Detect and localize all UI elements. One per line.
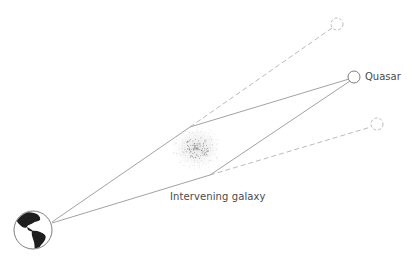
- sightline-lower-image: [210, 127, 371, 175]
- lensing-diagram: Quasar Intervening galaxy: [0, 0, 413, 264]
- galaxy-label: Intervening galaxy: [170, 192, 266, 202]
- path-quasar-to-lower: [210, 81, 350, 175]
- sightline-upper-image: [190, 28, 332, 127]
- earth-icon: [14, 211, 52, 253]
- quasar-icon: [348, 71, 360, 83]
- apparent-image-lower-icon: [371, 118, 383, 130]
- diagram-canvas: [0, 0, 413, 264]
- path-upper-to-earth: [52, 127, 190, 222]
- apparent-image-upper-icon: [331, 18, 343, 30]
- quasar-label: Quasar: [365, 72, 401, 82]
- path-quasar-to-upper: [190, 79, 349, 127]
- intervening-galaxy: [171, 126, 223, 170]
